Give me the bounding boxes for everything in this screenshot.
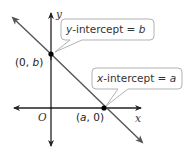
y-intercept-point: [48, 51, 53, 56]
origin-label: O: [38, 111, 47, 123]
y-axis-label: y: [55, 8, 63, 20]
graph-line-lower: [51, 54, 142, 142]
intercepts-diagram: y x O y-intercept = b x-intercept = a (0…: [0, 0, 194, 155]
x-intercept-point-label: (a, 0): [76, 111, 104, 123]
x-intercept-callout-text: x-intercept = a: [96, 72, 176, 84]
y-intercept-point-label: (0, b): [15, 56, 43, 68]
y-intercept-callout-text: y-intercept = b: [65, 23, 146, 35]
graph-line: [13, 18, 51, 54]
x-axis-label: x: [135, 112, 141, 124]
x-intercept-point: [101, 105, 106, 110]
